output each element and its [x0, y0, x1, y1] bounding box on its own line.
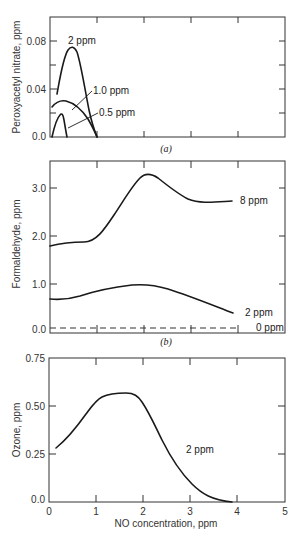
panel-c-xtick-2: 2 — [140, 506, 146, 517]
panel-c-xtick-5: 5 — [282, 506, 288, 517]
panel-a-curve-1ppm — [52, 101, 97, 137]
panel-c-ytick-050: 0.50 — [26, 401, 46, 412]
panel-a-label-2ppm: 2 ppm — [68, 35, 96, 46]
panel-b-ytick-3: 3.0 — [32, 183, 46, 194]
panel-c-xtick-0: 0 — [46, 506, 52, 517]
panel-c-ylabel: Ozone, ppm — [11, 403, 22, 457]
panel-c: 0.75 0.50 0.25 0.0 Ozone, ppm 0 1 2 3 4 … — [11, 353, 288, 529]
panel-b-ylabel: Formaldehyde, ppm — [11, 200, 22, 289]
panel-a-ytick-008: 0.08 — [27, 36, 47, 47]
panel-b-label-0ppm: 0 ppm — [256, 322, 284, 333]
panel-a-label-1ppm: 1.0 ppm — [93, 85, 129, 96]
panel-c-ytick-075: 0.75 — [26, 353, 46, 364]
panel-b-ytick-0: 0.0 — [32, 324, 46, 335]
figure: 0.08 0.04 0.0 Peroxyacetyl nitrate, ppm … — [0, 0, 300, 536]
panel-a: 0.08 0.04 0.0 Peroxyacetyl nitrate, ppm … — [11, 17, 285, 155]
panel-c-xtick-3: 3 — [187, 506, 193, 517]
panel-b-label-2ppm: 2 ppm — [245, 307, 273, 318]
panel-a-x-ticks — [97, 17, 238, 137]
panel-c-xtick-1: 1 — [93, 506, 99, 517]
panel-a-ytick-000: 0.0 — [32, 131, 46, 142]
panel-b-label-8ppm: 8 ppm — [240, 195, 268, 206]
panel-c-frame — [49, 358, 285, 502]
panel-a-curve-05ppm — [52, 114, 67, 137]
panel-c-ytick-000: 0.0 — [31, 494, 45, 505]
panel-a-y-ticks — [50, 41, 285, 113]
panel-b-curve-8ppm — [50, 174, 232, 246]
panel-b-ytick-1: 1.0 — [32, 279, 46, 290]
panel-a-label-05ppm: 0.5 ppm — [99, 107, 135, 118]
panel-c-x-ticks — [96, 358, 237, 502]
panel-a-ytick-004: 0.04 — [27, 84, 47, 95]
panel-c-label-2ppm: 2 ppm — [186, 444, 214, 455]
panel-b-caption: (b) — [160, 336, 172, 348]
panel-b-curve-2ppm — [50, 285, 233, 313]
panel-b-ytick-2: 2.0 — [32, 231, 46, 242]
panel-c-xtick-4: 4 — [234, 506, 240, 517]
panel-c-ytick-025: 0.25 — [26, 449, 46, 460]
panel-c-y-ticks — [49, 406, 285, 454]
panel-b: 3.0 2.0 1.0 0.0 Formaldehyde, ppm 8 ppm … — [11, 161, 285, 348]
panel-a-ylabel: Peroxyacetyl nitrate, ppm — [11, 21, 22, 134]
panel-a-caption: (a) — [160, 143, 172, 155]
panel-c-xlabel: NO concentration, ppm — [115, 518, 218, 529]
